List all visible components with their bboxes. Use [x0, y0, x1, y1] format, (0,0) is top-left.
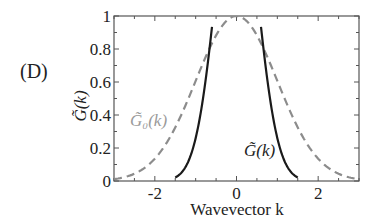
y-tick-label: 1 [103, 7, 112, 26]
y-tick-label: 0.8 [90, 40, 111, 59]
plot-frame [114, 16, 359, 181]
y-axis-title: G̃(k) [71, 90, 90, 121]
panel-label: (D) [20, 60, 48, 83]
axes [114, 16, 359, 181]
x-tick-label: 2 [314, 184, 323, 203]
y-tick-label: 0.6 [90, 73, 111, 92]
svg-text:G̃(k): G̃(k) [71, 90, 90, 121]
curve-g-solid-left [175, 27, 212, 178]
curve-g0-dashed [114, 16, 359, 179]
x-tick-label: -2 [148, 184, 162, 203]
y-tick-label: 0.2 [90, 139, 111, 158]
ticks: -20200.20.40.60.81 [90, 7, 359, 203]
chart: -20200.20.40.60.81 (D) G̃(k) Wavevector … [0, 0, 381, 221]
annotation-g: G̃(k) [244, 141, 275, 160]
x-axis-title: Wavevector k [190, 200, 284, 219]
y-tick-label: 0 [103, 172, 112, 191]
curves [114, 16, 359, 179]
y-tick-label: 0.4 [90, 106, 112, 125]
annotation-g0: G̃₀(k) [130, 111, 167, 130]
